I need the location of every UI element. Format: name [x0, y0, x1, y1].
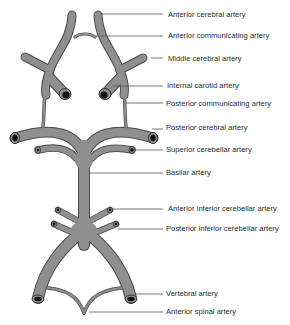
label-vertebral-artery: Vertebral artery [166, 289, 218, 298]
label-middle-cerebral-artery: Middle cerebral artery [168, 54, 242, 63]
label-anterior-inferior-cerebellar-artery: Anterior inferior cerebellar artery [168, 204, 277, 213]
pica-right-cut-end [113, 221, 119, 226]
label-posterior-communicating-artery: Posterior communicating artery [166, 99, 271, 108]
label-posterior-cerebral-artery: Posterior cerebral artery [166, 123, 248, 132]
aica-left-cut-end [55, 207, 61, 212]
circle-of-willis-diagram: Anterior cerebral artery Anterior commun… [0, 0, 290, 325]
posterior-cerebral-right-cut-end [149, 133, 158, 144]
vertebral-artery-right [84, 230, 131, 298]
vertebral-left-cut-end [32, 295, 44, 303]
label-basilar-artery: Basilar artery [166, 168, 211, 177]
vertebral-confluence [71, 221, 97, 239]
vertebral-right-cut-end [125, 295, 137, 303]
internal-carotid-right-cut-end [99, 89, 111, 100]
posterior-cerebral-left-cut-end [11, 133, 20, 144]
pica-left-cut-end [51, 221, 57, 226]
internal-carotid-left-cut-end [59, 89, 71, 100]
superior-cerebellar-right-cut-end [129, 147, 135, 154]
leader-lines [89, 14, 163, 312]
superior-cerebellar-left-cut-end [35, 147, 40, 153]
label-internal-carotid-artery: Internal carotid artery [167, 81, 239, 90]
label-superior-cerebellar-artery: Superior cerebellar artery [166, 145, 252, 154]
label-anterior-communicating-artery: Anterior communicating artery [168, 31, 269, 40]
label-anterior-spinal-artery: Anterior spinal artery [166, 307, 236, 316]
anterior-inferior-cerebellar-artery-left [58, 210, 80, 222]
labels: Anterior cerebral artery Anterior commun… [166, 10, 279, 316]
anterior-inferior-cerebellar-artery-right [88, 210, 110, 222]
aica-right-cut-end [107, 207, 113, 212]
label-posterior-inferior-cerebellar-artery: Posterior inferior cerebellar artery [166, 224, 279, 233]
label-anterior-cerebral-artery: Anterior cerebral artery [168, 10, 246, 19]
basilar-bifurcation [75, 150, 93, 170]
